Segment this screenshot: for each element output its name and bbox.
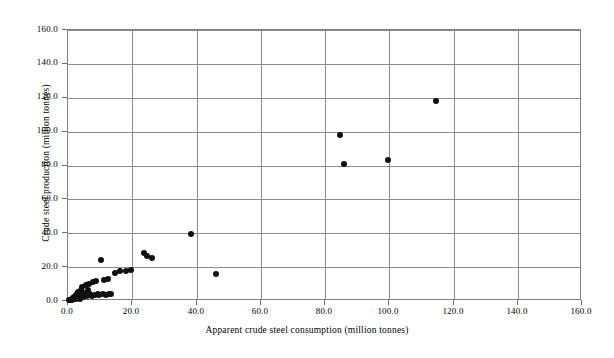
x-axis-tick-label: 140.0 [487, 307, 547, 316]
x-axis-tick-mark [196, 300, 197, 305]
x-axis-tick-mark [260, 300, 261, 305]
x-axis-tick-label: 120.0 [423, 307, 483, 316]
data-point [385, 157, 391, 163]
data-point [128, 267, 134, 273]
data-point [105, 276, 111, 282]
y-axis-tick-label: 80.0 [41, 160, 58, 169]
x-axis-tick-mark [453, 300, 454, 305]
data-point [108, 291, 114, 297]
data-point [433, 98, 439, 104]
data-point [149, 255, 155, 261]
gridline-vertical [454, 30, 455, 299]
gridline-horizontal [68, 233, 580, 234]
y-axis-tick-label: 100.0 [37, 126, 58, 135]
y-axis-tick-label: 40.0 [41, 228, 58, 237]
gridline-horizontal [68, 132, 580, 133]
gridline-vertical [389, 30, 390, 299]
gridline-vertical [325, 30, 326, 299]
y-axis-tick-label: 120.0 [37, 92, 58, 101]
y-axis-tick-label: 60.0 [41, 194, 58, 203]
x-axis-tick-label: 160.0 [551, 307, 611, 316]
plot-area [67, 29, 581, 300]
data-point [337, 132, 343, 138]
gridline-vertical [518, 30, 519, 299]
x-axis-tick-label: 60.0 [230, 307, 290, 316]
data-point [93, 278, 99, 284]
y-axis-tick-label: 160.0 [37, 25, 58, 34]
x-axis-tick-label: 20.0 [101, 307, 161, 316]
gridline-horizontal [68, 98, 580, 99]
x-axis-tick-label: 40.0 [166, 307, 226, 316]
x-axis-tick-label: 100.0 [358, 307, 418, 316]
gridline-vertical [132, 30, 133, 299]
x-axis-title: Apparent crude steel consumption (millio… [0, 325, 614, 335]
x-axis-tick-mark [324, 300, 325, 305]
data-point [213, 271, 219, 277]
gridline-vertical [261, 30, 262, 299]
x-axis-tick-mark [388, 300, 389, 305]
x-axis-tick-label: 0.0 [37, 307, 97, 316]
y-axis-tick-label: 0.0 [46, 296, 58, 305]
gridline-horizontal [68, 30, 580, 31]
scatter-chart-figure: Crude steel production (million tonnes) … [0, 0, 614, 358]
x-axis-tick-mark [131, 300, 132, 305]
y-axis-tick-label: 140.0 [37, 58, 58, 67]
x-axis-tick-mark [581, 300, 582, 305]
gridline-vertical [197, 30, 198, 299]
x-axis-tick-mark [517, 300, 518, 305]
data-point [188, 231, 194, 237]
gridline-horizontal [68, 166, 580, 167]
data-point [98, 257, 104, 263]
gridline-horizontal [68, 199, 580, 200]
gridline-horizontal [68, 267, 580, 268]
gridline-horizontal [68, 64, 580, 65]
y-axis-tick-label: 20.0 [41, 262, 58, 271]
x-axis-tick-label: 80.0 [294, 307, 354, 316]
